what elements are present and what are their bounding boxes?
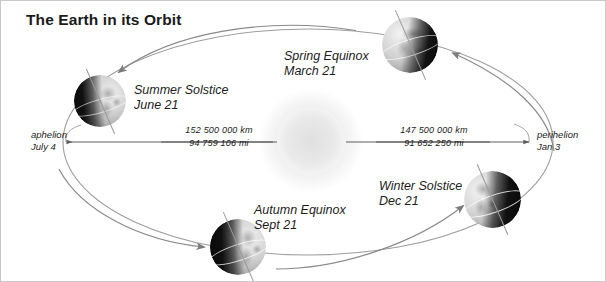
- orbit-direction-arrow-bottom-left: [59, 169, 204, 247]
- distance-km: 152 500 000 km: [164, 125, 274, 137]
- label-perihelion-distance: 147 500 000 km 91 652 250 mi: [379, 125, 489, 149]
- label-autumn-equinox: Autumn Equinox Sept 21: [254, 203, 346, 234]
- label-aphelion: aphelion July 4: [31, 129, 67, 152]
- label-line-1: aphelion: [31, 129, 67, 141]
- label-aphelion-distance: 152 500 000 km 94 759 106 mi: [164, 125, 274, 149]
- label-spring-equinox: Spring Equinox March 21: [284, 49, 369, 80]
- distance-mi: 91 652 250 mi: [379, 137, 489, 149]
- label-line-2: March 21: [284, 64, 369, 79]
- page-title: The Earth in its Orbit: [26, 11, 182, 29]
- label-line-2: Jan 3: [537, 141, 578, 153]
- label-line-2: June 21: [134, 98, 228, 113]
- label-line-1: Autumn Equinox: [254, 203, 346, 218]
- distance-mi: 94 759 106 mi: [164, 137, 274, 149]
- label-winter-solstice: Winter Solstice Dec 21: [379, 179, 462, 210]
- label-line-1: perihelion: [537, 129, 578, 141]
- aphelion-leader-line: [66, 125, 81, 142]
- label-line-1: Summer Solstice: [134, 83, 228, 98]
- orbit-graphics: [1, 1, 606, 282]
- label-summer-solstice: Summer Solstice June 21: [134, 83, 228, 114]
- earth-orbit-diagram: The Earth in its Orbit Spring Equinox Ma…: [0, 0, 606, 282]
- label-line-2: Dec 21: [379, 194, 462, 209]
- label-perihelion: perihelion Jan 3: [537, 129, 578, 152]
- label-line-1: Winter Solstice: [379, 179, 462, 194]
- sun-glow: [259, 89, 363, 193]
- label-line-1: Spring Equinox: [284, 49, 369, 64]
- perihelion-leader-line: [514, 124, 529, 142]
- label-line-2: July 4: [31, 141, 67, 153]
- distance-km: 147 500 000 km: [379, 125, 489, 137]
- label-line-2: Sept 21: [254, 218, 346, 233]
